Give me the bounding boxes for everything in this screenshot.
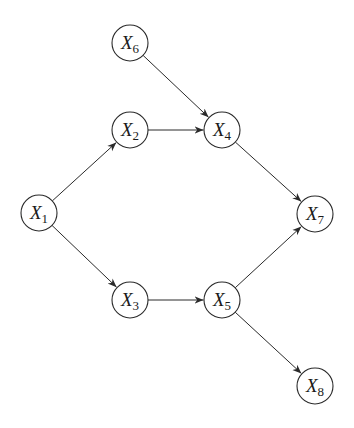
node-x5: X5: [204, 282, 240, 318]
edge-x5-to-x7: [235, 227, 301, 288]
node-x8: X8: [297, 368, 333, 404]
node-x2: X2: [112, 112, 148, 148]
edges-layer: [52, 55, 301, 373]
nodes-layer: X1X2X3X4X5X6X7X8: [21, 25, 333, 404]
edge-x6-to-x4: [143, 55, 209, 117]
node-x3: X3: [112, 282, 148, 318]
node-x6: X6: [112, 25, 148, 61]
edge-x5-to-x8: [235, 312, 301, 373]
edge-x1-to-x2: [52, 143, 116, 201]
node-x4: X4: [204, 112, 240, 148]
node-x1: X1: [21, 195, 57, 231]
dag-diagram: X1X2X3X4X5X6X7X8: [0, 0, 354, 428]
node-x7: X7: [297, 196, 333, 232]
edge-x1-to-x3: [52, 225, 117, 287]
edge-x4-to-x7: [235, 142, 301, 202]
